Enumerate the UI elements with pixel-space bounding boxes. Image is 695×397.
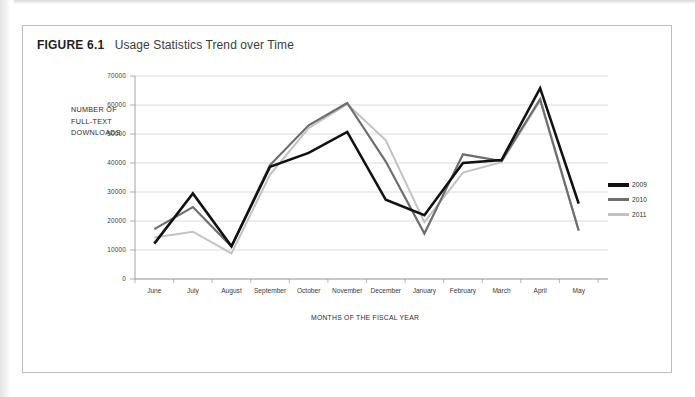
legend-label: 2011: [632, 211, 647, 218]
y-axis-label-line-3: DOWNLOADS: [71, 127, 121, 139]
y-axis-label-line-1: NUMBER OF: [71, 104, 121, 116]
x-axis-tick-label: December: [371, 287, 402, 294]
figure-label: FIGURE 6.1: [37, 38, 104, 52]
figure-title: Usage Statistics Trend over Time: [115, 38, 294, 52]
y-axis-label: NUMBER OF FULL-TEXT DOWNLOADS: [71, 104, 121, 139]
page-edge-shadow-top: [0, 0, 695, 4]
legend-item-2010[interactable]: 2010: [608, 192, 668, 207]
y-axis-tick-label: 30000: [107, 188, 126, 195]
y-axis-tick-label: 40000: [107, 159, 126, 166]
x-axis-tick-label: July: [187, 287, 199, 295]
x-axis-tick-label: October: [297, 287, 321, 294]
y-axis-tick-label: 20000: [107, 217, 126, 224]
y-axis-tick-label: 10000: [107, 246, 126, 253]
y-axis-tick-label: 70000: [107, 72, 126, 79]
x-axis-tick-label: September: [254, 287, 287, 295]
legend-label: 2010: [632, 196, 647, 203]
y-axis-label-line-2: FULL-TEXT: [71, 116, 121, 128]
x-axis-tick-label: August: [221, 287, 242, 295]
line-swatch-2011: [608, 213, 629, 216]
series-line-2009: [154, 88, 578, 246]
x-axis-label: MONTHS OF THE FISCAL YEAR: [311, 312, 419, 324]
legend-item-2011[interactable]: 2011: [608, 207, 668, 222]
legend-label: 2009: [632, 181, 647, 188]
x-axis-tick-label: April: [534, 287, 548, 295]
x-axis-tick-label: March: [492, 287, 511, 294]
legend-item-2009[interactable]: 2009: [608, 177, 668, 192]
plot-area: 010000200003000040000500006000070000 Jun…: [23, 64, 673, 374]
series-line-2011: [154, 101, 578, 254]
data-series-group: [154, 88, 578, 253]
x-axis-tick-labels-group: JuneJulyAugustSeptemberOctoberNovemberDe…: [135, 279, 598, 295]
x-axis-tick-label: June: [147, 287, 162, 294]
x-axis-tick-label: February: [450, 287, 477, 295]
figure-caption: FIGURE 6.1 Usage Statistics Trend over T…: [37, 38, 294, 52]
y-axis-tick-label: 0: [122, 275, 126, 282]
x-axis-tick-label: May: [572, 287, 585, 295]
chart-legend: 200920102011: [608, 177, 668, 222]
line-swatch-2009: [608, 183, 629, 187]
page-background: FIGURE 6.1 Usage Statistics Trend over T…: [0, 0, 695, 397]
x-axis-tick-label: November: [332, 287, 363, 294]
page-edge-shadow-left: [0, 0, 14, 397]
figure-container: FIGURE 6.1 Usage Statistics Trend over T…: [22, 25, 672, 373]
x-axis-tick-label: January: [413, 287, 437, 295]
line-swatch-2010: [608, 198, 629, 202]
